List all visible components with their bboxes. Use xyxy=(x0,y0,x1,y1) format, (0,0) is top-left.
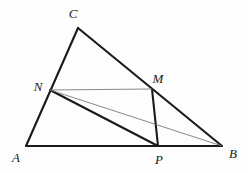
cevian-MP xyxy=(152,89,158,146)
vertex-label-C: C xyxy=(69,7,78,20)
segment-layer xyxy=(26,28,222,146)
vertex-label-M: M xyxy=(153,72,164,85)
vertex-label-P: P xyxy=(155,153,163,166)
geometry-figure: A B C M N P xyxy=(0,0,248,173)
vertex-label-A: A xyxy=(12,151,20,164)
midline-NM xyxy=(50,89,152,90)
cevian-NB xyxy=(50,90,222,146)
cevian-NP xyxy=(50,90,158,146)
vertex-label-B: B xyxy=(229,147,237,160)
side-CB xyxy=(78,28,222,146)
vertex-label-N: N xyxy=(34,80,43,93)
